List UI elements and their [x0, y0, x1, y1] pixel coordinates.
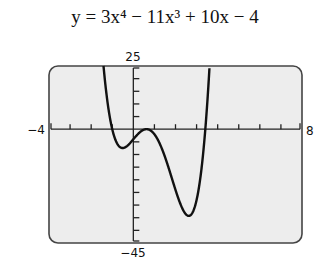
ymin-label: −45	[120, 246, 145, 260]
xmax-label: 8	[306, 124, 314, 138]
xmin-label: −4	[27, 123, 45, 137]
viewing-window-frame	[49, 66, 302, 243]
ymax-label: 25	[125, 50, 140, 64]
graphing-calculator-window: 25 −45 −4 8	[0, 0, 330, 273]
